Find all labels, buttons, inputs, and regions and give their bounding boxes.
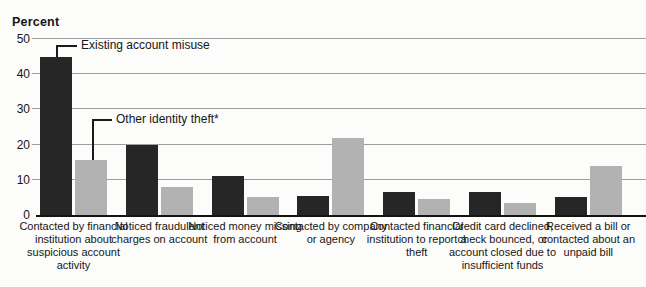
y-tick-label-10: 10 bbox=[2, 172, 30, 188]
y-tick-label-30: 30 bbox=[2, 101, 30, 117]
bar-other-identity-theft-5 bbox=[418, 199, 450, 215]
gridline-30 bbox=[32, 108, 646, 109]
bar-group-5 bbox=[383, 192, 450, 215]
bar-group-3 bbox=[212, 176, 279, 215]
bar-existing-account-misuse-7 bbox=[555, 197, 587, 215]
annotation-other-identity-theft: Other identity theft* bbox=[116, 112, 219, 126]
bar-other-identity-theft-2 bbox=[161, 187, 193, 215]
bar-other-identity-theft-1 bbox=[75, 160, 107, 215]
bar-other-identity-theft-6 bbox=[504, 203, 536, 215]
plot-area bbox=[36, 39, 646, 215]
existing-account-misuse-connector-line bbox=[56, 45, 77, 47]
y-tick-label-40: 40 bbox=[2, 66, 30, 82]
y-tick-label-50: 50 bbox=[2, 31, 30, 47]
bar-existing-account-misuse-6 bbox=[469, 192, 501, 215]
annotation-existing-account-misuse: Existing account misuse bbox=[81, 38, 210, 52]
bar-group-4 bbox=[297, 138, 364, 215]
bar-existing-account-misuse-2 bbox=[126, 145, 158, 215]
bar-existing-account-misuse-3 bbox=[212, 176, 244, 215]
bar-group-2 bbox=[126, 145, 193, 215]
bar-group-1 bbox=[40, 57, 107, 215]
bar-other-identity-theft-3 bbox=[247, 197, 279, 215]
y-tick-label-20: 20 bbox=[2, 137, 30, 153]
x-axis-line bbox=[36, 215, 646, 218]
y-axis-title: Percent bbox=[12, 15, 59, 29]
bar-other-identity-theft-4 bbox=[332, 138, 364, 215]
other-identity-theft-connector-line bbox=[92, 119, 112, 121]
bar-existing-account-misuse-4 bbox=[297, 196, 329, 215]
gridline-40 bbox=[32, 73, 646, 74]
bar-existing-account-misuse-5 bbox=[383, 192, 415, 215]
other-identity-theft-connector-line bbox=[92, 119, 94, 160]
bar-group-7 bbox=[555, 166, 622, 215]
x-axis-label-7: Received a bill or contacted about an un… bbox=[531, 220, 645, 259]
bar-group-6 bbox=[469, 192, 536, 215]
bar-existing-account-misuse-1 bbox=[40, 57, 72, 215]
bar-other-identity-theft-7 bbox=[590, 166, 622, 215]
existing-account-misuse-connector-line bbox=[56, 45, 58, 57]
bar-chart-figure: Percent Existing account misuse Other id… bbox=[0, 0, 646, 287]
